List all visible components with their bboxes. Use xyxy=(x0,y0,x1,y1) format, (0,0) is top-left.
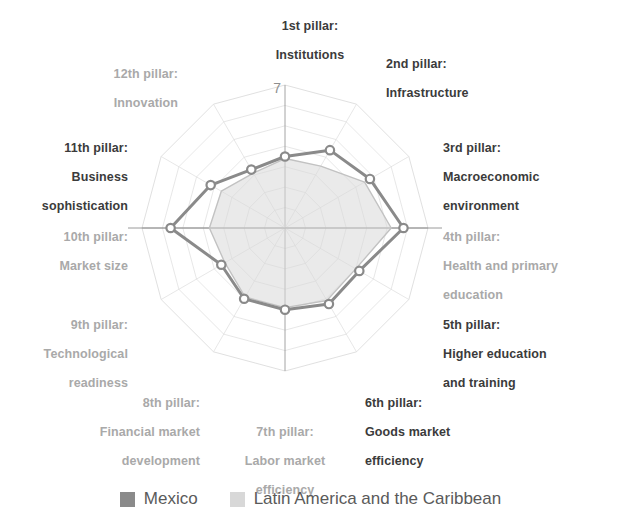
axis-label-line: Health and primary xyxy=(443,259,621,274)
axis-label-line: Market size xyxy=(0,259,128,274)
chart-legend: Mexico Latin America and the Caribbean xyxy=(0,489,621,509)
axis-label-line: 2nd pillar: xyxy=(386,57,586,72)
axis-label-line: Business xyxy=(0,170,128,185)
radar-chart-figure: 7 1st pillar: Institutions 2nd pillar: I… xyxy=(0,0,621,521)
axis-label-line: 6th pillar: xyxy=(365,396,525,411)
legend-label-mexico: Mexico xyxy=(144,489,198,509)
axis-label-line: Higher education xyxy=(443,347,621,362)
data-point-marker xyxy=(281,306,289,314)
legend-label-latam: Latin America and the Caribbean xyxy=(254,489,502,509)
axis-label-6th-pillar: 6th pillar: Goods market efficiency xyxy=(365,381,525,483)
axis-label-9th-pillar: 9th pillar: Technological readiness xyxy=(0,303,128,405)
axis-max-tick-label: 7 xyxy=(273,80,281,96)
data-point-marker xyxy=(355,267,363,275)
data-point-marker xyxy=(366,175,374,183)
axis-label-line: development xyxy=(40,454,200,469)
axis-label-line: 7th pillar: xyxy=(210,425,360,440)
legend-swatch-mexico xyxy=(120,492,135,507)
axis-label-line: 12th pillar: xyxy=(38,67,178,82)
data-point-marker xyxy=(217,261,225,269)
data-point-marker xyxy=(326,146,334,154)
axis-label-line: environment xyxy=(443,199,621,214)
axis-label-line: efficiency xyxy=(365,454,525,469)
axis-label-2nd-pillar: 2nd pillar: Infrastructure xyxy=(386,42,586,115)
data-point-marker xyxy=(240,295,248,303)
axis-label-line: 4th pillar: xyxy=(443,230,621,245)
axis-label-line: Goods market xyxy=(365,425,525,440)
axis-label-line: Technological xyxy=(0,347,128,362)
data-point-marker xyxy=(247,165,255,173)
data-point-marker xyxy=(399,224,407,232)
axis-label-3rd-pillar: 3rd pillar: Macroeconomic environment xyxy=(443,126,621,228)
axis-label-line: Innovation xyxy=(38,96,178,111)
legend-swatch-latam xyxy=(230,492,245,507)
axis-label-line: 10th pillar: xyxy=(0,230,128,245)
axis-label-line: Labor market xyxy=(210,454,360,469)
axis-label-line: 5th pillar: xyxy=(443,318,621,333)
axis-label-line: 1st pillar: xyxy=(190,19,430,34)
axis-label-line: 9th pillar: xyxy=(0,318,128,333)
axis-label-line: sophistication xyxy=(0,199,128,214)
data-point-marker xyxy=(166,224,174,232)
legend-item-latam: Latin America and the Caribbean xyxy=(230,489,502,509)
axis-label-11th-pillar: 11th pillar: Business sophistication xyxy=(0,126,128,228)
axis-label-line: readiness xyxy=(0,376,128,391)
axis-label-line: Infrastructure xyxy=(386,86,586,101)
axis-label-4th-pillar: 4th pillar: Health and primary education xyxy=(443,215,621,317)
axis-label-line: education xyxy=(443,288,621,303)
axis-label-line: 3rd pillar: xyxy=(443,141,621,156)
data-point-marker xyxy=(206,181,214,189)
axis-label-line: Financial market xyxy=(40,425,200,440)
data-point-marker xyxy=(281,152,289,160)
axis-label-12th-pillar: 12th pillar: Innovation xyxy=(38,52,178,125)
legend-item-mexico: Mexico xyxy=(120,489,198,509)
axis-label-line: Macroeconomic xyxy=(443,170,621,185)
axis-label-line: 11th pillar: xyxy=(0,141,128,156)
data-point-marker xyxy=(325,300,333,308)
